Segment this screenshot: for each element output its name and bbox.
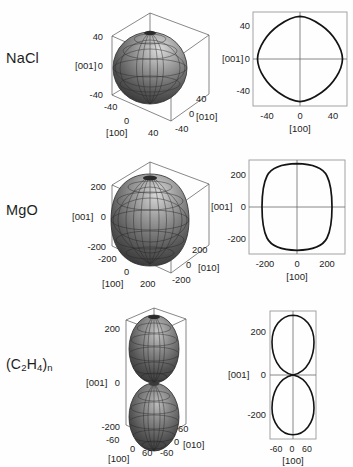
svg-text:-200: -200 bbox=[172, 275, 191, 285]
svg-text:200: 200 bbox=[230, 170, 246, 180]
axes-crosshair bbox=[253, 12, 347, 106]
svg-text:-200: -200 bbox=[247, 410, 266, 420]
svg-text:-200: -200 bbox=[227, 234, 246, 244]
svg-text:60: 60 bbox=[302, 444, 312, 454]
x-axis-ticks: -40 0 40 bbox=[260, 111, 338, 121]
y-axis-ticks: 200 0 -200 bbox=[247, 327, 266, 420]
svg-text:0: 0 bbox=[101, 212, 106, 222]
x-axis-label: [100] bbox=[102, 278, 123, 289]
svg-text:200: 200 bbox=[192, 245, 208, 255]
svg-text:-60: -60 bbox=[270, 444, 283, 454]
svg-text:-200: -200 bbox=[87, 242, 106, 252]
x-axis-label: [100] bbox=[289, 123, 310, 134]
svg-text:-40: -40 bbox=[104, 102, 117, 112]
y-axis-label: [010] bbox=[198, 262, 219, 273]
svg-text:0: 0 bbox=[290, 444, 295, 454]
x-axis-label: [100] bbox=[108, 453, 129, 464]
svg-text:-60: -60 bbox=[160, 448, 173, 458]
svg-text:0: 0 bbox=[294, 259, 299, 269]
plot3d-mgo: 200 0 -200 [001] -200 0 200 [100] 200 0 … bbox=[88, 154, 220, 306]
svg-text:200: 200 bbox=[90, 182, 106, 192]
z-axis-label: [001] bbox=[72, 211, 93, 222]
z-axis-label: [001] bbox=[86, 377, 107, 388]
svg-text:60: 60 bbox=[178, 424, 188, 434]
svg-text:200: 200 bbox=[250, 327, 266, 337]
svg-text:-40: -40 bbox=[237, 86, 250, 96]
figure-row-nacl: NaCl bbox=[0, 0, 353, 155]
x-axis-label: [100] bbox=[282, 455, 303, 466]
svg-text:40: 40 bbox=[328, 111, 338, 121]
svg-text:40: 40 bbox=[148, 128, 158, 138]
y-axis-label: [010] bbox=[183, 439, 204, 450]
svg-text:0: 0 bbox=[124, 116, 129, 126]
z-axis-label: [001] bbox=[75, 60, 96, 71]
svg-text:-60: -60 bbox=[106, 435, 119, 445]
modulus-surface-nacl bbox=[113, 31, 187, 104]
svg-text:0: 0 bbox=[245, 54, 250, 64]
x-axis-label: [100] bbox=[286, 271, 307, 282]
y-axis-label: [001] bbox=[222, 53, 243, 64]
plot2d-polyethylene: 200 0 -200 [001] -60 0 60 [100] bbox=[224, 306, 352, 466]
figure-row-mgo: MgO bbox=[0, 152, 353, 307]
axes-crosshair bbox=[249, 160, 345, 254]
svg-text:-40: -40 bbox=[90, 90, 103, 100]
modulus-surface-polyethylene bbox=[129, 315, 179, 451]
svg-text:-40: -40 bbox=[175, 124, 188, 134]
figure-row-polyethylene: (C2H4)n bbox=[0, 304, 353, 467]
y-axis-label: [010] bbox=[196, 111, 217, 122]
svg-text:0: 0 bbox=[98, 61, 103, 71]
svg-text:200: 200 bbox=[140, 279, 156, 289]
svg-text:60: 60 bbox=[142, 448, 152, 458]
svg-text:-200: -200 bbox=[98, 254, 117, 264]
svg-text:0: 0 bbox=[241, 202, 246, 212]
x-axis-ticks: -60 0 60 bbox=[270, 444, 312, 454]
svg-text:40: 40 bbox=[240, 21, 250, 31]
svg-text:-200: -200 bbox=[101, 422, 120, 432]
plot2d-nacl: 40 0 -40 [001] -40 0 40 [100] bbox=[224, 2, 352, 154]
svg-text:0: 0 bbox=[115, 378, 120, 388]
svg-text:0: 0 bbox=[189, 109, 194, 119]
plot2d-mgo: 200 0 -200 [001] -200 0 200 [100] bbox=[224, 154, 352, 306]
y-axis-label: [001] bbox=[228, 369, 249, 380]
material-label-polyethylene: (C2H4)n bbox=[6, 356, 92, 373]
svg-text:40: 40 bbox=[93, 32, 103, 42]
svg-text:0: 0 bbox=[124, 267, 129, 277]
svg-text:-200: -200 bbox=[256, 259, 275, 269]
x-axis-label: [100] bbox=[106, 127, 127, 138]
svg-text:200: 200 bbox=[104, 324, 120, 334]
x-axis-ticks: -200 0 200 bbox=[256, 259, 335, 269]
svg-text:0: 0 bbox=[130, 444, 135, 454]
plot3d-polyethylene: 200 0 -200 [001] -60 0 60 [100] 60 0 -60… bbox=[88, 306, 220, 466]
svg-text:40: 40 bbox=[196, 94, 206, 104]
modulus-surface-mgo bbox=[111, 174, 189, 266]
svg-text:0: 0 bbox=[297, 111, 302, 121]
svg-text:-40: -40 bbox=[260, 111, 273, 121]
y-axis-label: [001] bbox=[211, 201, 232, 212]
svg-text:0: 0 bbox=[174, 437, 179, 447]
svg-text:200: 200 bbox=[319, 259, 335, 269]
svg-text:0: 0 bbox=[186, 260, 191, 270]
plot3d-nacl: 40 0 -40 [001] -40 0 40 [100] 40 0 -40 [… bbox=[88, 2, 220, 154]
svg-text:0: 0 bbox=[261, 370, 266, 380]
